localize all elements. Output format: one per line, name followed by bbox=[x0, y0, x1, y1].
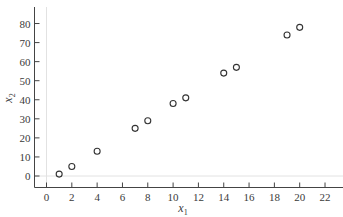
x-tick-label: 18 bbox=[269, 191, 281, 203]
y-axis-ticks: 01020304050607080 bbox=[20, 18, 40, 182]
y-tick-label: 20 bbox=[20, 132, 32, 144]
y-tick-label: 70 bbox=[20, 37, 32, 49]
y-axis-label: x2 bbox=[1, 93, 17, 103]
data-point bbox=[221, 70, 227, 76]
data-point bbox=[69, 163, 75, 169]
y-tick-label: 10 bbox=[20, 151, 32, 163]
x-tick-label: 14 bbox=[218, 191, 230, 203]
data-point bbox=[94, 148, 100, 154]
y-tick-label: 60 bbox=[20, 56, 32, 68]
x-tick-label: 8 bbox=[145, 191, 151, 203]
y-tick-label: 30 bbox=[20, 113, 32, 125]
y-tick-label: 40 bbox=[20, 94, 32, 106]
x-tick-label: 12 bbox=[193, 191, 204, 203]
data-point bbox=[183, 95, 189, 101]
data-points bbox=[56, 24, 303, 177]
x-tick-label: 20 bbox=[294, 191, 306, 203]
y-tick-label: 50 bbox=[20, 75, 32, 87]
data-point bbox=[132, 125, 138, 131]
data-point bbox=[284, 32, 290, 38]
x-axis-label: x1 bbox=[177, 201, 187, 217]
scatter-chart: 0246810121416182022 01020304050607080 x1… bbox=[0, 0, 343, 217]
data-point bbox=[297, 24, 303, 30]
data-point bbox=[145, 118, 151, 124]
x-tick-label: 2 bbox=[69, 191, 75, 203]
y-tick-label: 80 bbox=[20, 18, 32, 30]
data-point bbox=[233, 64, 239, 70]
x-tick-label: 4 bbox=[94, 191, 100, 203]
x-tick-label: 6 bbox=[120, 191, 126, 203]
y-tick-label: 0 bbox=[25, 170, 31, 182]
x-tick-label: 22 bbox=[320, 191, 331, 203]
x-axis-ticks: 0246810121416182022 bbox=[44, 183, 331, 203]
x-tick-label: 0 bbox=[44, 191, 50, 203]
x-tick-label: 16 bbox=[244, 191, 256, 203]
data-point bbox=[170, 101, 176, 107]
